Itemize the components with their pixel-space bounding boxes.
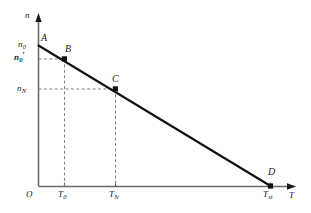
guide-lines-point-c xyxy=(39,89,116,186)
x-tick-sub-TN: N xyxy=(114,193,118,200)
guide-lines-point-b xyxy=(39,59,65,186)
marker-point-d xyxy=(268,183,273,188)
y-tick-sub-n0: 0 xyxy=(23,43,26,50)
y-tick-label-n0prime: n0′ xyxy=(14,53,25,62)
x-axis xyxy=(39,183,297,189)
point-label-d: D xyxy=(268,167,275,177)
x-tick-sub-T0: 0 xyxy=(63,193,66,200)
point-label-b: B xyxy=(65,44,71,54)
point-label-c: C xyxy=(112,74,119,84)
origin-label: O xyxy=(26,190,33,199)
x-tick-label-TN: TN xyxy=(109,190,118,199)
x-tick-label-T0: T0 xyxy=(58,190,66,199)
x-tick-sub-Tst: st xyxy=(268,193,272,200)
y-tick-prime-n0prime: ′ xyxy=(22,50,25,60)
y-tick-sub-nN: N xyxy=(22,87,26,94)
point-label-a: A xyxy=(41,33,47,43)
y-tick-label-nN: nN xyxy=(17,84,26,93)
x-axis-arrowhead xyxy=(287,183,296,189)
x-tick-label-Tst: Tst xyxy=(263,190,272,199)
y-tick-base-n0: n xyxy=(18,39,23,49)
marker-point-b xyxy=(62,56,67,61)
x-axis-label: T xyxy=(289,191,294,200)
characteristic-line xyxy=(39,46,271,187)
y-tick-base-nN: n xyxy=(17,83,22,93)
y-axis-arrowhead xyxy=(35,13,41,22)
n-t-diagram-figure: n T O n0 n0′ nN T0 TN Tst A B C D xyxy=(0,0,311,213)
y-tick-label-n0: n0 xyxy=(18,40,26,49)
y-axis-label: n xyxy=(25,11,30,20)
marker-point-c xyxy=(113,86,118,91)
